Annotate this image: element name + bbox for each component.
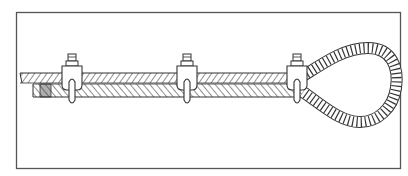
seized-rope-end (40, 84, 51, 97)
wire-rope-clip-illustration (0, 0, 408, 176)
clip-nut-icon (293, 54, 301, 61)
illustration-canvas (0, 0, 408, 176)
rope-eye-loop (303, 48, 397, 122)
clip-nut-icon (183, 54, 191, 61)
clip-nut-icon (68, 54, 76, 61)
